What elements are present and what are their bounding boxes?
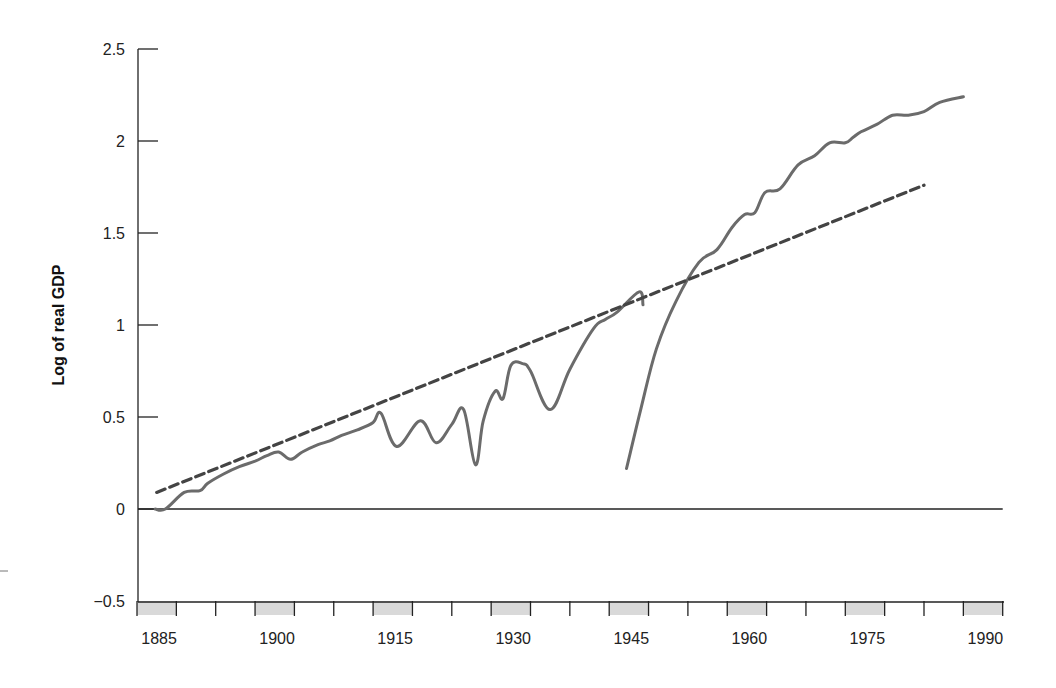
trend-line — [157, 185, 924, 492]
shaded-interval — [609, 601, 648, 615]
y-tick-label: 0 — [116, 501, 125, 518]
y-axis-ticks — [138, 49, 158, 509]
x-tick-label: 1885 — [141, 630, 177, 647]
x-tick-label: 1945 — [613, 630, 649, 647]
shaded-interval — [373, 601, 412, 615]
y-tick-label: 2 — [116, 133, 125, 150]
x-tick-label: 1990 — [968, 630, 1004, 647]
y-axis-labels: 2.521.510.50−0.5 — [93, 41, 125, 610]
x-axis-labels: 18851900191519301945196019751990 — [141, 630, 1003, 647]
gdp-chart: 18851900191519301945196019751990 2.521.5… — [0, 0, 1056, 688]
y-tick-label: 2.5 — [103, 41, 125, 58]
gdp-line — [155, 292, 643, 511]
shaded-interval — [137, 601, 176, 615]
y-axis-title: Log of real GDP — [50, 264, 67, 385]
x-tick-label: 1930 — [495, 630, 531, 647]
y-tick-label: 0.5 — [103, 409, 125, 426]
y-tick-label: −0.5 — [93, 593, 125, 610]
y-tick-label: 1 — [116, 317, 125, 334]
x-tick-label: 1900 — [259, 630, 295, 647]
x-tick-label: 1915 — [377, 630, 413, 647]
data-series — [155, 97, 963, 511]
shaded-interval — [727, 601, 766, 615]
x-tick-label: 1960 — [731, 630, 767, 647]
shaded-interval — [491, 601, 530, 615]
shaded-interval — [255, 601, 294, 615]
x-tick-label: 1975 — [850, 630, 886, 647]
y-tick-label: 1.5 — [103, 225, 125, 242]
shaded-interval — [963, 601, 1002, 615]
shaded-interval — [845, 601, 884, 615]
